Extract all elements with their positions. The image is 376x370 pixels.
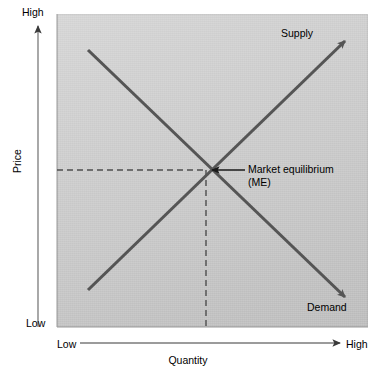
x-axis-high-tick-label: High: [346, 338, 368, 351]
x-axis-low-tick-label: Low: [57, 338, 76, 351]
x-axis-title: Quantity: [0, 354, 376, 366]
y-axis-low-tick-label: Low: [26, 317, 45, 330]
market-equilibrium-annotation-line1: Market equilibrium: [248, 163, 334, 176]
supply-demand-chart: High Low Price Low High Quantity Supply …: [0, 0, 376, 370]
market-equilibrium-annotation-line2: (ME): [248, 176, 334, 189]
y-axis-high-tick-label: High: [22, 6, 44, 19]
market-equilibrium-annotation: Market equilibrium (ME): [248, 163, 334, 189]
y-axis-title: Price: [11, 131, 23, 191]
supply-curve-label: Supply: [281, 27, 313, 40]
demand-curve-label: Demand: [307, 301, 347, 314]
